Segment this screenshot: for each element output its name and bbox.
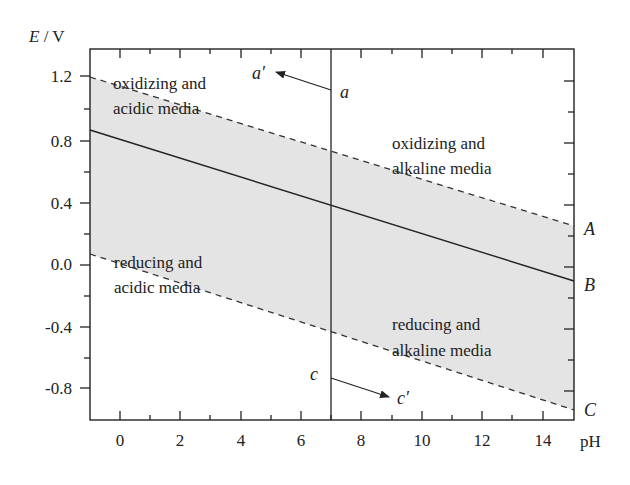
stability-region [90,77,574,410]
arrow-c-to-c-prime [331,378,389,397]
svg-text:c: c [310,364,318,384]
svg-text:a′: a′ [252,63,266,83]
svg-text:reducing and: reducing and [114,253,203,272]
svg-text:alkaline media: alkaline media [392,341,492,360]
y-axis-label: E / V [28,27,65,46]
svg-text:alkaline media: alkaline media [392,159,492,178]
svg-text:a: a [340,82,349,102]
svg-text:-0.4: -0.4 [45,318,72,337]
svg-text:0: 0 [116,431,125,450]
arrow-a-to-a-prime [276,72,331,90]
x-axis-label: pH [580,432,601,451]
svg-text:-0.8: -0.8 [45,379,72,398]
svg-text:8: 8 [357,431,366,450]
svg-text:acidic media: acidic media [114,278,201,297]
svg-text:oxidizing and: oxidizing and [392,134,486,153]
svg-text:c′: c′ [397,388,410,408]
svg-text:2: 2 [176,431,185,450]
svg-text:reducing and: reducing and [392,315,481,334]
svg-text:10: 10 [414,431,431,450]
svg-text:C: C [584,400,597,420]
x-tick-labels: 0 2 4 6 8 10 12 14 [116,431,552,450]
svg-text:0.8: 0.8 [51,132,72,151]
pourbaix-chart: 0 2 4 6 8 10 12 14 pH 1.2 0.8 0.4 0.0 -0… [0,0,630,485]
svg-text:0.4: 0.4 [51,194,73,213]
svg-text:6: 6 [297,431,306,450]
svg-text:4: 4 [237,431,246,450]
svg-text:acidic media: acidic media [113,99,200,118]
svg-text:14: 14 [535,431,553,450]
svg-text:A: A [583,219,596,239]
svg-text:1.2: 1.2 [51,67,72,86]
svg-text:12: 12 [474,431,491,450]
svg-text:oxidizing and: oxidizing and [113,74,207,93]
y-tick-labels: 1.2 0.8 0.4 0.0 -0.4 -0.8 [45,67,72,398]
svg-text:B: B [584,275,595,295]
svg-text:0.0: 0.0 [51,255,72,274]
